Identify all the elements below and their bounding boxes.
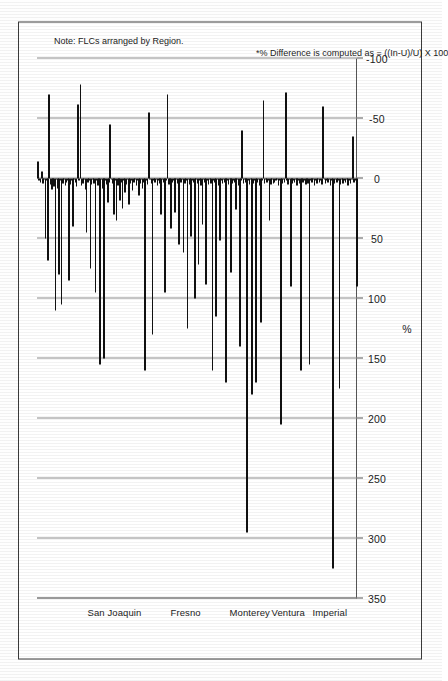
tick-mark <box>357 117 363 118</box>
value-tick-label: 200 <box>368 412 386 424</box>
bar <box>187 178 189 328</box>
bar <box>356 178 358 286</box>
bar <box>174 178 176 212</box>
bar <box>339 178 341 388</box>
bar <box>99 178 101 364</box>
bar <box>215 178 217 316</box>
region-label: Fresno <box>171 607 201 618</box>
region-note: Note: FLCs arranged by Region. <box>54 35 184 45</box>
bar <box>109 124 111 178</box>
bar <box>122 178 124 208</box>
value-tick-label: 300 <box>368 532 386 544</box>
value-tick-label: 100 <box>368 292 386 304</box>
tick-mark <box>357 417 363 418</box>
bar <box>321 178 323 184</box>
bar <box>80 84 82 178</box>
bar <box>194 178 196 298</box>
bar <box>309 178 311 364</box>
bar <box>76 178 78 186</box>
footnote: *% Difference is computed as = ((In-U)/U… <box>256 47 448 57</box>
region-label: Imperial <box>313 607 348 618</box>
bar <box>164 178 166 292</box>
value-tick-label: 50 <box>371 232 383 244</box>
region-label: San Joaquin <box>87 607 141 618</box>
tick-mark <box>357 177 363 178</box>
bar <box>225 178 227 382</box>
tick-mark <box>357 477 363 478</box>
bar <box>285 92 287 178</box>
bar <box>263 100 265 178</box>
bar <box>260 178 262 322</box>
tick-mark <box>357 597 363 598</box>
value-tick-label: -50 <box>369 112 385 124</box>
bar <box>300 178 302 370</box>
value-tick-label: 150 <box>368 352 386 364</box>
bar <box>95 178 97 292</box>
bar <box>178 178 180 244</box>
bar <box>322 106 324 178</box>
bar <box>72 178 74 226</box>
bar <box>167 94 169 178</box>
bar <box>205 178 207 284</box>
bar <box>148 112 150 178</box>
tick-mark <box>357 297 363 298</box>
bar <box>239 178 241 346</box>
bar <box>45 178 47 238</box>
bar <box>230 178 232 272</box>
bar <box>235 178 237 209</box>
bar <box>152 178 154 334</box>
bar <box>170 178 172 228</box>
bar <box>219 178 221 240</box>
bar <box>290 178 292 286</box>
chart-plate: 350300250200150100500-50-100 % San Joaqu… <box>18 21 422 659</box>
tick-mark <box>357 357 363 358</box>
bar <box>332 178 334 568</box>
bar <box>55 178 57 310</box>
bar <box>108 178 110 182</box>
bar <box>251 178 253 394</box>
bar <box>47 178 49 260</box>
bar <box>352 136 354 178</box>
bar <box>48 94 50 178</box>
bar <box>41 171 43 178</box>
bar <box>246 178 248 532</box>
bar <box>160 178 162 214</box>
bar <box>255 178 257 382</box>
plot-area <box>37 58 357 598</box>
bar <box>212 178 214 370</box>
bar <box>40 178 42 182</box>
bar <box>144 178 146 370</box>
value-axis-title: % <box>402 322 411 334</box>
value-tick-label: 0 <box>374 172 380 184</box>
value-tick-label: 350 <box>368 592 386 604</box>
bar <box>113 178 115 214</box>
bar <box>183 178 185 252</box>
bar <box>202 178 204 224</box>
bar <box>103 178 105 358</box>
bar <box>58 178 60 274</box>
tick-mark <box>357 537 363 538</box>
bar-series <box>37 58 357 598</box>
bar <box>68 178 70 280</box>
bar <box>241 130 243 178</box>
bar <box>61 178 63 304</box>
bar <box>90 178 92 268</box>
value-tick-label: 250 <box>368 472 386 484</box>
bar <box>37 161 39 178</box>
bar <box>86 178 88 232</box>
tick-mark <box>357 237 363 238</box>
bar <box>77 104 79 178</box>
bar <box>190 178 192 236</box>
bar <box>147 178 149 184</box>
region-label: Monterey <box>230 607 270 618</box>
bar <box>198 178 200 264</box>
bar <box>280 178 282 424</box>
region-label: Ventura <box>271 607 304 618</box>
bar <box>284 178 286 182</box>
